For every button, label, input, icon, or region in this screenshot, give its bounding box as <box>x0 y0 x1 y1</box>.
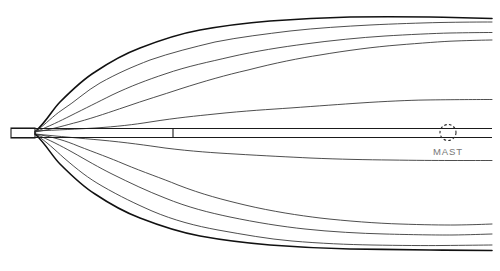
waterline-3-upper <box>35 40 492 132</box>
mast-marker-group: MAST <box>433 125 463 158</box>
mast-label: MAST <box>433 146 463 157</box>
waterline-3-lower <box>35 134 492 225</box>
sheer-line-lower <box>35 134 492 251</box>
upper-hull-curves <box>35 17 492 132</box>
lower-hull-curves <box>35 134 492 251</box>
waterline-2-upper <box>35 33 492 133</box>
stem-post-box <box>11 128 35 138</box>
hull-lines-canvas: MAST <box>0 0 500 271</box>
waterline-2-lower <box>35 134 492 235</box>
waterline-1-upper <box>35 22 492 132</box>
hull-lines-drawing: MAST <box>0 0 500 271</box>
waterline-4-upper <box>35 100 492 132</box>
centerline-band <box>11 129 492 138</box>
waterline-1-lower <box>35 134 492 246</box>
mast-position-circle <box>440 125 456 141</box>
